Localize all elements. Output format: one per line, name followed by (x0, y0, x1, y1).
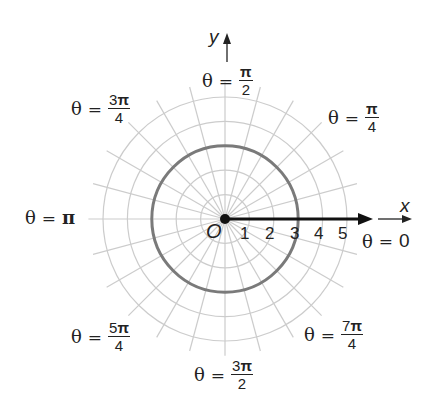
grid-radial-45 (225, 122, 322, 219)
grid-radial-120 (157, 101, 225, 219)
x-axis-label: x (400, 195, 410, 217)
y-axis-arrowhead-icon (223, 33, 231, 44)
grid-radial-30 (225, 151, 343, 219)
radius-tick-4: 4 (314, 224, 323, 244)
angle-label-3pi-over-4: θ = 3π4 (71, 92, 130, 125)
grid-radial-150 (107, 151, 225, 219)
angle-label-5pi-over-4: θ = 5π4 (71, 320, 130, 353)
angle-label-0: θ = 0 (362, 230, 410, 252)
angle-label-3pi-over-2: θ = 3π2 (194, 358, 253, 391)
radius-tick-2: 2 (265, 224, 274, 244)
radius-tick-1: 1 (240, 224, 249, 244)
radius-tick-3: 3 (290, 224, 299, 244)
ray-arrowhead-icon (358, 213, 373, 225)
origin-label: O (206, 220, 222, 243)
y-axis-label: y (209, 26, 219, 48)
angle-label-7pi-over-4: θ = 7π4 (304, 318, 363, 351)
angle-label-pi-over-4: θ = π4 (328, 101, 379, 134)
grid-radial-60 (225, 101, 293, 219)
angle-label-pi: θ = π (25, 207, 75, 228)
polar-diagram: y x O 1 2 3 4 5 θ = 0 θ = π4 θ = π2 θ = … (0, 0, 441, 401)
grid-radial-135 (128, 122, 225, 219)
angle-label-pi-over-2: θ = π2 (202, 64, 253, 97)
radius-tick-5: 5 (338, 224, 347, 244)
polar-grid-svg (0, 0, 441, 401)
grid-radial-300 (225, 219, 293, 337)
